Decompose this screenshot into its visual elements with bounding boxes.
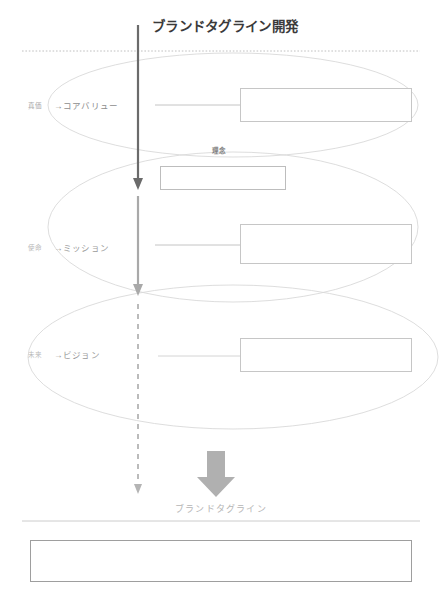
row-prefix-core-value: 真価 <box>28 103 43 110</box>
row-label-vision: →ビジョン <box>54 351 100 360</box>
row-prefix-mission: 使命 <box>28 245 43 252</box>
flow-arrowhead-dark <box>133 178 143 190</box>
input-core-value[interactable] <box>240 88 412 122</box>
row-label-mission: →ミッション <box>54 244 109 253</box>
flow-arrowhead-dashed <box>134 484 142 494</box>
flow-arrowhead-gray <box>133 284 143 296</box>
row-label-core-value: →コアバリュー <box>54 102 119 111</box>
tagline-label: ブランドタグライン <box>175 505 267 514</box>
rinen-label: 理念 <box>212 148 227 155</box>
input-rinen[interactable] <box>160 166 286 190</box>
input-mission[interactable] <box>240 224 412 264</box>
input-tagline[interactable] <box>30 540 412 582</box>
row-prefix-vision: 未来 <box>28 352 43 359</box>
page-title: ブランドタグライン開発 <box>152 20 298 34</box>
block-down-arrow <box>197 451 235 497</box>
worksheet-canvas: ブランドタグライン開発 真価 →コアバリュー 理念 使命 →ミッション 未来 →… <box>0 0 446 607</box>
input-vision[interactable] <box>240 338 412 372</box>
